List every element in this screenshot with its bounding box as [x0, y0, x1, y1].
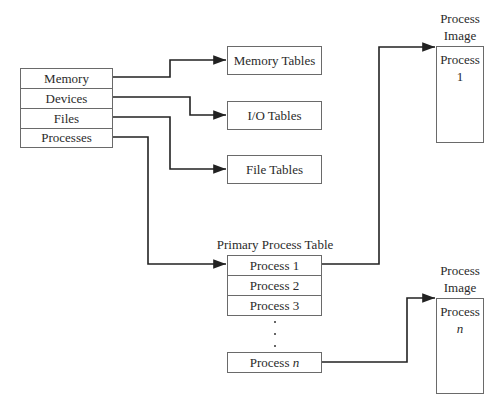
- os-row-devices: Devices: [20, 88, 113, 109]
- title-line: Image: [425, 279, 495, 296]
- process-row-label: Process 1: [250, 258, 299, 274]
- memory-tables-label: Memory Tables: [234, 53, 316, 69]
- process-row-label: Process: [250, 355, 290, 371]
- title-line: Process: [425, 262, 495, 279]
- os-row-files: Files: [20, 108, 113, 129]
- process-image-1-box: Process 1: [436, 46, 484, 143]
- process-row-var: n: [293, 355, 300, 371]
- io-tables-box: I/O Tables: [227, 101, 322, 130]
- os-row-label: Devices: [46, 91, 88, 107]
- process-image-n-title: Process Image: [425, 262, 495, 296]
- process-image-1-title: Process Image: [425, 10, 495, 44]
- os-row-label: Processes: [41, 130, 92, 146]
- ellipsis-dot: [274, 321, 276, 323]
- io-tables-label: I/O Tables: [247, 108, 301, 124]
- os-row-label: Memory: [44, 71, 89, 87]
- ellipsis-dot: [274, 345, 276, 347]
- content-line: Process: [437, 51, 483, 68]
- file-tables-box: File Tables: [227, 155, 322, 184]
- ellipsis-dot: [274, 333, 276, 335]
- process-row-3: Process 3: [227, 295, 322, 316]
- process-image-n-box: Process n: [436, 298, 484, 394]
- os-row-memory: Memory: [20, 68, 113, 89]
- process-row-1: Process 1: [227, 255, 322, 276]
- memory-tables-box: Memory Tables: [227, 46, 322, 75]
- content-line: n: [437, 320, 483, 337]
- primary-process-table-title: Primary Process Table: [205, 236, 345, 253]
- content-line: 1: [437, 68, 483, 85]
- process-row-label: Process 3: [250, 298, 299, 314]
- os-row-processes: Processes: [20, 128, 113, 148]
- process-row-n: Process n: [227, 352, 322, 373]
- title-line: Image: [425, 27, 495, 44]
- process-row-2: Process 2: [227, 275, 322, 296]
- content-line: Process: [437, 303, 483, 320]
- process-row-label: Process 2: [250, 278, 299, 294]
- file-tables-label: File Tables: [246, 162, 303, 178]
- title-line: Process: [425, 10, 495, 27]
- os-row-label: Files: [54, 111, 79, 127]
